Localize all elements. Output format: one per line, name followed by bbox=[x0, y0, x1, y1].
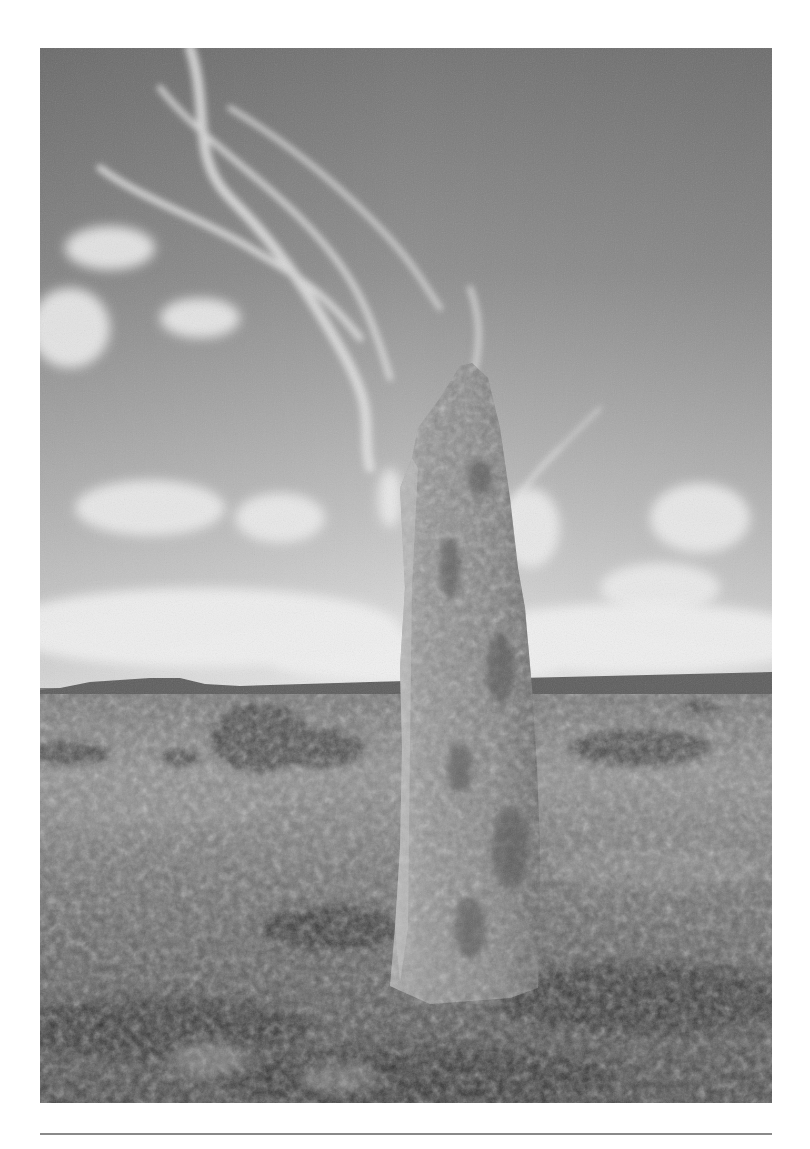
standing-stone-photograph bbox=[40, 48, 772, 1103]
horizontal-rule bbox=[40, 1133, 772, 1135]
